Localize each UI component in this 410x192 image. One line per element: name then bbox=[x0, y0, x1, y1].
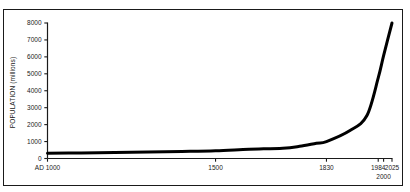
y-axis-title: POPULATION (millions) bbox=[9, 43, 16, 143]
x-axis-tick-label: 1830 bbox=[303, 164, 349, 171]
chart-series-group bbox=[48, 23, 393, 153]
y-axis-tick-label: 0 bbox=[16, 155, 42, 162]
y-axis-tick-label: 5000 bbox=[16, 70, 42, 77]
y-axis-tick-label: 2000 bbox=[16, 121, 42, 128]
x-axis-tick-label-secondary: 2000 bbox=[361, 173, 407, 180]
x-axis-tick-label: 2025 bbox=[369, 164, 410, 171]
y-axis-tick-label: 7000 bbox=[16, 36, 42, 43]
y-axis-tick-label: 3000 bbox=[16, 104, 42, 111]
population-curve bbox=[48, 23, 393, 153]
x-axis-tick-label: AD 1000 bbox=[25, 164, 71, 171]
population-growth-chart-figure: POPULATION (millions) 010002000300040005… bbox=[0, 0, 410, 192]
y-axis-tick-label: 4000 bbox=[16, 87, 42, 94]
y-axis-tick-label: 1000 bbox=[16, 138, 42, 145]
chart-axes bbox=[44, 23, 392, 162]
x-axis-tick-label: 1500 bbox=[193, 164, 239, 171]
y-axis-tick-label: 6000 bbox=[16, 53, 42, 60]
y-axis-tick-label: 8000 bbox=[16, 19, 42, 26]
